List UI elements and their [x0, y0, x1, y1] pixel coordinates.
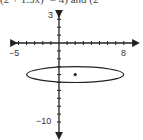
y-min-label: −10: [36, 116, 51, 126]
coordinate-plane: −5 8 3 −10: [0, 0, 143, 140]
y-max-label: 3: [48, 10, 53, 20]
x-min-label: −5: [9, 48, 19, 58]
center-point: [74, 73, 77, 76]
x-max-label: 8: [121, 48, 126, 58]
